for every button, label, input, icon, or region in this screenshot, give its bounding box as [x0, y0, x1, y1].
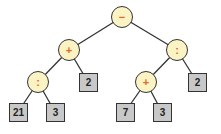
leaf-node-3-right: 3	[153, 103, 172, 122]
operator-node-plus-right: +	[135, 71, 157, 93]
operator-node-div-right: :	[166, 39, 188, 61]
operator-node-plus-left: +	[58, 39, 80, 61]
leaf-node-21: 21	[9, 103, 28, 122]
expression-tree-diagram: − + : : + 2 2 21 3 7 3	[0, 0, 221, 134]
operator-node-div-left: :	[27, 71, 49, 93]
leaf-node-7: 7	[116, 103, 135, 122]
operator-node-root: −	[111, 6, 133, 28]
leaf-node-2-left: 2	[79, 73, 98, 92]
leaf-node-3-left: 3	[46, 103, 65, 122]
leaf-node-2-right: 2	[188, 73, 207, 92]
